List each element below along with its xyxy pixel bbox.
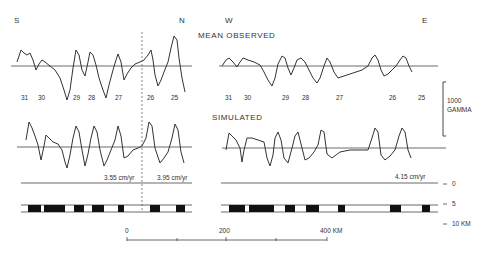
distance-scale-bar: 0 200 400 KM bbox=[125, 227, 342, 241]
direction-east: E bbox=[422, 16, 428, 25]
rate-left-2: 3.95 cm/yr bbox=[157, 174, 188, 182]
svg-text:31: 31 bbox=[225, 94, 233, 101]
svg-text:200: 200 bbox=[219, 227, 230, 234]
gamma-scale-unit: GAMMA bbox=[447, 106, 472, 113]
svg-text:29: 29 bbox=[282, 94, 290, 101]
rate-left-1: 3.55 cm/yr bbox=[104, 174, 135, 182]
magnetic-anomaly-figure: S N W E MEAN OBSERVED SIMULATED 31 30 29… bbox=[0, 0, 488, 254]
svg-text:5: 5 bbox=[452, 200, 456, 207]
anomaly-labels-left: 31 30 29 28 27 26 25 bbox=[21, 94, 179, 101]
svg-text:30: 30 bbox=[244, 94, 252, 101]
svg-text:27: 27 bbox=[115, 94, 123, 101]
svg-text:0: 0 bbox=[452, 180, 456, 187]
svg-text:25: 25 bbox=[171, 94, 179, 101]
svg-text:31: 31 bbox=[21, 94, 29, 101]
direction-west: W bbox=[225, 16, 233, 25]
depth-scale: 0 5 10 KM bbox=[443, 180, 471, 227]
gamma-scale-value: 1000 bbox=[447, 97, 462, 104]
simulated-left-curve bbox=[26, 122, 184, 168]
rate-right-1: 4.15 cm/yr bbox=[395, 173, 426, 181]
observed-left-curve bbox=[17, 36, 185, 100]
svg-text:28: 28 bbox=[88, 94, 96, 101]
svg-text:25: 25 bbox=[418, 94, 426, 101]
svg-text:10 KM: 10 KM bbox=[452, 220, 471, 227]
direction-north: N bbox=[179, 16, 185, 25]
observed-right-curve bbox=[222, 55, 412, 86]
block-model-right bbox=[221, 205, 438, 212]
direction-south: S bbox=[14, 16, 20, 25]
block-model-left bbox=[21, 205, 192, 212]
anomaly-labels-right: 31 30 29 28 27 26 25 bbox=[225, 94, 426, 101]
svg-text:26: 26 bbox=[147, 94, 155, 101]
svg-text:0: 0 bbox=[125, 227, 129, 234]
gamma-scale-bracket bbox=[443, 82, 446, 136]
svg-text:29: 29 bbox=[73, 94, 81, 101]
simulated-right-curve bbox=[226, 128, 411, 166]
svg-text:28: 28 bbox=[302, 94, 310, 101]
svg-text:27: 27 bbox=[336, 94, 344, 101]
svg-text:26: 26 bbox=[389, 94, 397, 101]
svg-text:30: 30 bbox=[38, 94, 46, 101]
title-mean-observed: MEAN OBSERVED bbox=[198, 31, 275, 40]
svg-text:400 KM: 400 KM bbox=[320, 227, 342, 234]
title-simulated: SIMULATED bbox=[212, 113, 263, 122]
